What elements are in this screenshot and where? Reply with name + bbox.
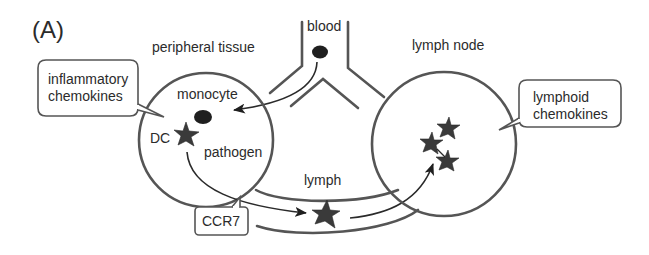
panel-label: (A) [32, 16, 64, 43]
inflammatory-label: inflammatory [48, 71, 128, 87]
monocyte-label: monocyte [177, 86, 238, 102]
lymphoid-label: lymphoid [533, 89, 589, 105]
lymph-node-dc-icon [436, 150, 459, 171]
immune-migration-diagram: (A) peripheral tissue blood lymph node i… [0, 0, 649, 255]
vessel-inner-fork [291, 79, 358, 108]
monocyte-icon [194, 110, 212, 124]
vessel-right-wall [348, 22, 384, 97]
lymphoid-chemokines-label: chemokines [533, 106, 608, 122]
dc-label: DC [150, 130, 170, 146]
blood-vessel [270, 22, 384, 108]
dc-contact-line [437, 149, 445, 157]
lymphoid-chemokines-callout: lymphoid chemokines [499, 80, 621, 130]
blood-monocyte-icon [312, 46, 328, 59]
lymph-node-circle [372, 72, 516, 216]
ccr7-callout: CCR7 [195, 197, 248, 235]
inflammatory-chemokines-callout: inflammatory chemokines [38, 60, 164, 117]
lymph-upper-wall [256, 190, 398, 201]
peripheral-tissue-label: peripheral tissue [152, 39, 255, 55]
dendritic-cell-icon [174, 122, 199, 146]
lymph-node-dc-icon [437, 117, 460, 139]
lymph-node-dc-icon [420, 132, 443, 154]
dc-migration-arrow [187, 152, 306, 213]
ccr7-label: CCR7 [202, 213, 240, 229]
blood-label: blood [307, 18, 341, 34]
migrating-dc-icon [312, 200, 340, 228]
inflammatory-chemokines-label: chemokines [48, 88, 123, 104]
vessel-left-wall [270, 22, 302, 93]
lymph-label: lymph [304, 172, 341, 188]
pathogen-label: pathogen [204, 144, 262, 160]
lymph-node-label: lymph node [412, 37, 485, 53]
lymph-lower-wall [257, 210, 418, 233]
